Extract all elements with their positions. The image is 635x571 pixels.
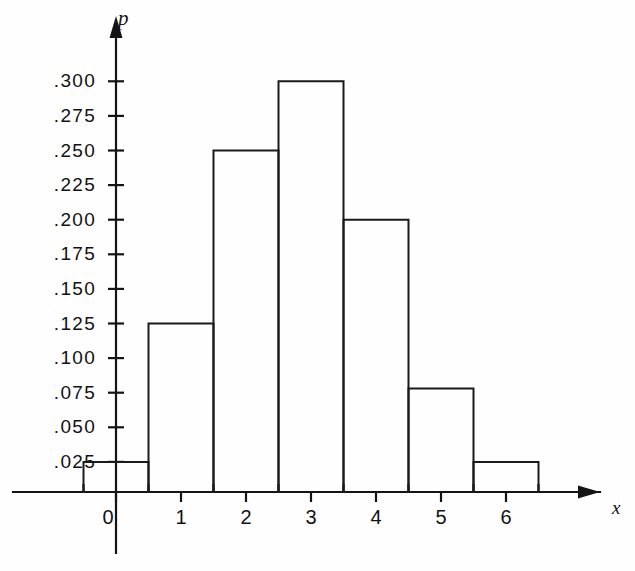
bar-2 (214, 151, 279, 493)
bar-4 (344, 220, 409, 492)
y-tick-label-200: .200 (18, 209, 96, 231)
y-axis-label: p (118, 6, 129, 31)
x-tick-label-0: 0 (102, 506, 113, 529)
x-tick-label-3: 3 (305, 506, 316, 529)
x-tick-label-1: 1 (175, 506, 186, 529)
y-tick-label-250: .250 (18, 140, 96, 162)
x-axis-label: x (612, 497, 620, 519)
x-tick-label-4: 4 (370, 506, 381, 529)
x-axis-group (13, 486, 600, 499)
x-tick-label-5: 5 (435, 506, 446, 529)
y-tick-label-275: .275 (18, 105, 96, 127)
y-tick-label-100: .100 (18, 347, 96, 369)
bar-5 (409, 389, 474, 493)
x-tick-label-6: 6 (500, 506, 511, 529)
bar-1 (149, 324, 214, 493)
bar-6 (474, 462, 539, 492)
probability-histogram-figure: .300 .275 .250 .225 .200 .175 .150 .125 … (0, 0, 635, 571)
y-tick-label-050: .050 (18, 416, 96, 438)
x-tick-label-2: 2 (240, 506, 251, 529)
y-tick-label-300: .300 (18, 70, 96, 92)
y-tick-label-150: .150 (18, 278, 96, 300)
y-tick-label-075: .075 (18, 382, 96, 404)
histogram-bars (84, 81, 539, 492)
y-tick-label-175: .175 (18, 243, 96, 265)
x-major-tick-marks (116, 492, 506, 502)
bar-3 (279, 81, 344, 492)
y-tick-label-225: .225 (18, 174, 96, 196)
y-tick-label-025: .025 (18, 451, 96, 473)
x-axis-arrowhead (578, 486, 600, 499)
y-tick-label-125: .125 (18, 313, 96, 335)
y-axis-group (110, 16, 123, 553)
x-minor-tick-marks (84, 484, 539, 492)
